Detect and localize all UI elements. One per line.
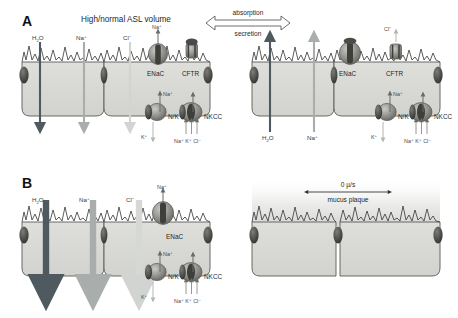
nkcc-label: NKCC — [204, 113, 222, 120]
tight-junction — [203, 226, 212, 243]
tight-junction — [331, 66, 338, 83]
nak-label: N/K — [168, 113, 179, 120]
nak-label: N/K — [398, 113, 409, 120]
tight-junction — [101, 66, 108, 83]
mucus-rate-label: 0 µ/s — [341, 181, 356, 189]
epithelial-cell — [252, 62, 334, 116]
nkcc-ions-label: Na⁺ K⁺ Cl⁻ — [174, 138, 201, 144]
cftr-label: CFTR — [386, 70, 403, 77]
figure-airway-epithelium-asl: A High/normal ASL volume absorption secr… — [0, 0, 458, 318]
nkcc-ions-label: Na⁺ K⁺ Cl⁻ — [174, 298, 201, 304]
panel-b-letter: B — [22, 175, 32, 191]
tight-junction — [101, 226, 108, 243]
mucus-plaque-label: mucus plaque — [327, 196, 368, 204]
nak-label: N/K — [168, 273, 179, 280]
nkcc-ions-label: Na⁺ K⁺ Cl⁻ — [404, 138, 431, 144]
tight-junction — [19, 66, 28, 83]
nkcc-label: NKCC — [434, 113, 452, 120]
tight-junction — [249, 66, 258, 83]
tight-junction — [433, 226, 442, 243]
panel-a-title: High/normal ASL volume — [81, 15, 171, 24]
absorption-label: absorption — [233, 9, 264, 17]
nkcc-label: NKCC — [204, 273, 222, 280]
epithelial-cell — [340, 222, 440, 276]
enac-label: ENaC — [166, 233, 183, 240]
tight-junction — [203, 66, 212, 83]
tight-junction — [19, 226, 28, 243]
panel-a-letter: A — [22, 13, 32, 29]
enac-label: ENaC — [339, 70, 356, 77]
cftr-label: CFTR — [182, 70, 199, 77]
tight-junction — [433, 66, 442, 83]
panel-b-right-epithelium: 0 µ/s mucus plaque — [249, 176, 442, 276]
epithelial-cell — [22, 62, 104, 116]
tight-junction — [333, 226, 342, 243]
enac-label: ENaC — [147, 70, 164, 77]
epithelial-cell — [252, 222, 336, 276]
secretion-label: secretion — [235, 30, 262, 37]
tight-junction — [249, 226, 258, 243]
